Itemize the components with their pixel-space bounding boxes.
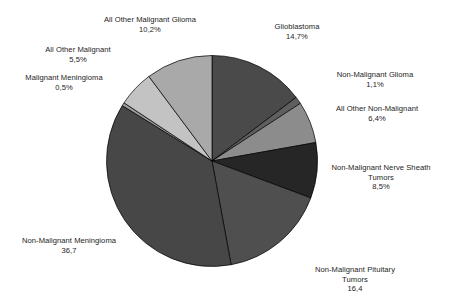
pie-label-non-malignant-glioma-name: Non-Malignant Glioma <box>337 70 414 80</box>
pie-label-non-malignant-meningioma-value: 36,7 <box>22 246 116 256</box>
pie-label-non-malignant-nerve-sheath-tumors-name-line1: Non-Malignant Nerve Sheath <box>331 163 430 173</box>
pie-label-all-other-non-malignant-name: All Other Non-Malignant <box>336 104 418 114</box>
pie-label-non-malignant-pituitary-tumors-value: 16,4 <box>315 284 395 294</box>
pie-label-malignant-meningioma-value: 0,5% <box>25 83 102 93</box>
pie-label-non-malignant-glioma-value: 1,1% <box>337 80 414 90</box>
pie-label-all-other-malignant-name: All Other Malignant <box>45 45 111 55</box>
pie-slice-group <box>106 56 317 267</box>
pie-label-all-other-malignant: All Other Malignant 5,5% <box>45 45 111 64</box>
pie-label-non-malignant-pituitary-tumors-name-line2: Tumors <box>315 275 395 285</box>
pie-label-all-other-malignant-value: 5,5% <box>45 55 111 65</box>
pie-label-all-other-non-malignant: All Other Non-Malignant 6,4% <box>336 104 418 123</box>
pie-chart-figure: Glioblastoma 14,7% Non-Malignant Glioma … <box>0 0 454 307</box>
pie-label-all-other-malignant-glioma-name: All Other Malignant Glioma <box>104 15 196 25</box>
pie-label-non-malignant-meningioma: Non-Malignant Meningioma 36,7 <box>22 236 116 255</box>
pie-label-glioblastoma-name: Glioblastoma <box>275 22 320 32</box>
pie-label-glioblastoma-value: 14,7% <box>275 32 320 42</box>
pie-label-non-malignant-nerve-sheath-tumors-value: 8,5% <box>331 182 430 192</box>
pie-label-all-other-non-malignant-value: 6,4% <box>336 114 418 124</box>
pie-label-non-malignant-nerve-sheath-tumors-name-line2: Tumors <box>331 173 430 183</box>
pie-label-non-malignant-glioma: Non-Malignant Glioma 1,1% <box>337 70 414 89</box>
pie-label-malignant-meningioma-name: Malignant Meningioma <box>25 73 102 83</box>
pie-label-non-malignant-pituitary-tumors: Non-Malignant Pituitary Tumors 16,4 <box>315 265 395 294</box>
pie-label-malignant-meningioma: Malignant Meningioma 0,5% <box>25 73 102 92</box>
pie-label-all-other-malignant-glioma-value: 10,2% <box>104 25 196 35</box>
pie-label-non-malignant-nerve-sheath-tumors: Non-Malignant Nerve Sheath Tumors 8,5% <box>331 163 430 192</box>
pie-label-non-malignant-meningioma-name: Non-Malignant Meningioma <box>22 236 116 246</box>
pie-label-non-malignant-pituitary-tumors-name-line1: Non-Malignant Pituitary <box>315 265 395 275</box>
pie-label-all-other-malignant-glioma: All Other Malignant Glioma 10,2% <box>104 15 196 34</box>
pie-label-glioblastoma: Glioblastoma 14,7% <box>275 22 320 41</box>
